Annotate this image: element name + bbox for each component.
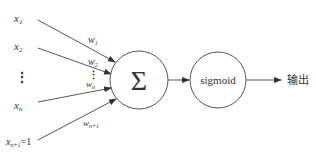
input-ellipsis: ⋮ (15, 70, 29, 85)
sigma-symbol: Σ (131, 65, 147, 96)
weight-w1: w1 (88, 34, 98, 46)
input-x2: x2 (13, 40, 23, 54)
edge-x2 (38, 48, 111, 74)
weight-w2: w2 (88, 56, 98, 68)
weight-wn1: wn+1 (83, 118, 99, 129)
edge-x1 (38, 20, 115, 62)
edge-bias (38, 99, 116, 140)
input-xn: xn (13, 99, 23, 113)
output-label: 输出 (287, 73, 309, 87)
neuron-diagram: x1 x2 ⋮ xn xn+1=1 w1 w2 ⋮ wn wn+1 Σ sigm… (0, 0, 316, 157)
input-bias: xn+1=1 (5, 136, 31, 148)
sigmoid-label: sigmoid (200, 74, 236, 86)
input-x1: x1 (13, 12, 22, 26)
edge-xn (38, 88, 111, 102)
